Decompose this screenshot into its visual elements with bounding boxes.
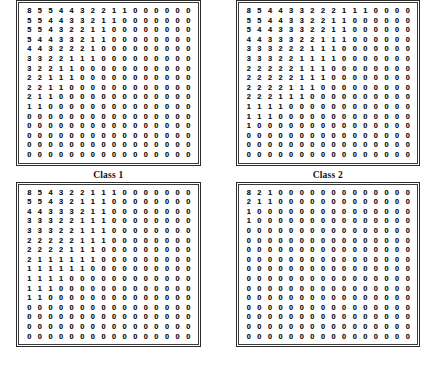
- matrix-cell: 0: [35, 303, 46, 313]
- matrix-cell: 0: [162, 112, 173, 122]
- matrix-cell: 0: [45, 322, 56, 332]
- matrix-cell: 1: [339, 35, 350, 45]
- matrix-cell: 0: [151, 92, 162, 102]
- matrix-cell: 0: [66, 140, 77, 150]
- matrix-cell: 0: [307, 293, 318, 303]
- matrix-cell: 0: [360, 312, 371, 322]
- matrix-cell: 0: [98, 54, 109, 64]
- matrix-cell: 0: [119, 112, 130, 122]
- matrix-cell: 0: [349, 112, 360, 122]
- matrix-cell: 0: [286, 322, 297, 332]
- matrix-cell: 0: [254, 121, 265, 131]
- matrix-cell: 3: [66, 207, 77, 217]
- matrix-cell: 0: [130, 255, 141, 265]
- matrix-cell: 0: [172, 131, 183, 141]
- matrix-cell: 0: [151, 25, 162, 35]
- matrix-cell: 0: [328, 140, 339, 150]
- matrix-cell: 0: [88, 331, 99, 341]
- matrix-cell: 0: [381, 245, 392, 255]
- matrix-cell: 0: [162, 35, 173, 45]
- matrix-cell: 0: [318, 207, 329, 217]
- matrix-cell: 3: [56, 197, 67, 207]
- matrix-cell: 0: [151, 255, 162, 265]
- matrix-cell: 1: [45, 92, 56, 102]
- matrix-cell: 0: [88, 83, 99, 93]
- matrix-cell: 0: [66, 112, 77, 122]
- matrix-cell: 0: [109, 121, 120, 131]
- matrix-cell: 1: [265, 102, 276, 112]
- matrix-cell: 0: [402, 216, 413, 226]
- matrix-cell: 0: [371, 197, 382, 207]
- matrix-cell: 2: [24, 255, 35, 265]
- matrix-cell: 0: [56, 140, 67, 150]
- matrix-cell: 0: [151, 264, 162, 274]
- matrix-cell: 0: [371, 25, 382, 35]
- matrix-cell: 0: [77, 331, 88, 341]
- matrix-cell: 0: [162, 25, 173, 35]
- matrix-cell: 0: [98, 322, 109, 332]
- matrix-cell: 0: [349, 64, 360, 74]
- matrix-cell: 0: [162, 322, 173, 332]
- matrix-cell: 0: [109, 322, 120, 332]
- matrix-cell: 0: [77, 293, 88, 303]
- matrix-cell: 0: [119, 64, 130, 74]
- matrix-cell: 0: [275, 283, 286, 293]
- matrix-cell: 0: [371, 216, 382, 226]
- matrix-cell: 3: [265, 44, 276, 54]
- matrix-row: 1100000000000000: [24, 102, 194, 112]
- matrix-cell: 0: [130, 207, 141, 217]
- matrix-cell: 0: [45, 293, 56, 303]
- matrix-cell: 1: [265, 197, 276, 207]
- matrix-cell: 0: [392, 92, 403, 102]
- matrix-row: 3332211110000000: [244, 54, 414, 64]
- matrix-cell: 0: [318, 245, 329, 255]
- matrix-cell: 1: [45, 264, 56, 274]
- matrix-cell: 0: [56, 322, 67, 332]
- matrix-cell: 1: [328, 44, 339, 54]
- matrix-cell: 0: [349, 131, 360, 141]
- panel-class-4: 8210000000000000211000000000000010000000…: [221, 182, 427, 348]
- matrix-cell: 0: [371, 64, 382, 74]
- matrix-cell: 3: [24, 64, 35, 74]
- matrix-cell: 0: [130, 216, 141, 226]
- matrix-cell: 5: [254, 16, 265, 26]
- matrix-cell: 1: [244, 102, 255, 112]
- matrix-cell: 0: [98, 283, 109, 293]
- matrix-cell: 1: [328, 35, 339, 45]
- matrix-cell: 0: [35, 150, 46, 160]
- matrix-cell: 1: [45, 274, 56, 284]
- matrix-cell: 1: [349, 6, 360, 16]
- matrix-grid: 8554432211000000554433211000000055432211…: [0, 0, 427, 347]
- matrix-cell: 0: [183, 150, 194, 160]
- matrix-cell: 0: [244, 245, 255, 255]
- matrix-cell: 0: [371, 92, 382, 102]
- matrix-cell: 0: [328, 283, 339, 293]
- matrix-cell: 4: [56, 16, 67, 26]
- matrix-cell: 0: [151, 16, 162, 26]
- matrix-cell: 0: [172, 64, 183, 74]
- matrix-cell: 0: [371, 245, 382, 255]
- matrix-cell: 0: [286, 112, 297, 122]
- matrix-cell: 0: [130, 25, 141, 35]
- matrix-cell: 0: [77, 83, 88, 93]
- matrix-cell: 0: [381, 226, 392, 236]
- matrix-cell: 0: [339, 235, 350, 245]
- matrix-cell: 0: [24, 121, 35, 131]
- matrix-cell: 0: [98, 150, 109, 160]
- matrix-cell: 0: [88, 150, 99, 160]
- matrix-cell: 0: [318, 331, 329, 341]
- matrix-cell: 0: [360, 150, 371, 160]
- matrix-cell: 0: [151, 188, 162, 198]
- matrix-cell: 0: [172, 283, 183, 293]
- matrix-cell: 0: [141, 140, 152, 150]
- matrix-cell: 0: [392, 25, 403, 35]
- matrix-cell: 0: [307, 131, 318, 141]
- matrix-cell: 0: [130, 245, 141, 255]
- matrix-row: 2211000000000000: [24, 83, 194, 93]
- matrix-cell: 0: [392, 197, 403, 207]
- matrix-cell: 0: [119, 131, 130, 141]
- matrix-cell: 0: [244, 303, 255, 313]
- matrix-cell: 5: [254, 6, 265, 16]
- matrix-row: 1000000000000000: [244, 207, 414, 217]
- matrix-cell: 5: [24, 197, 35, 207]
